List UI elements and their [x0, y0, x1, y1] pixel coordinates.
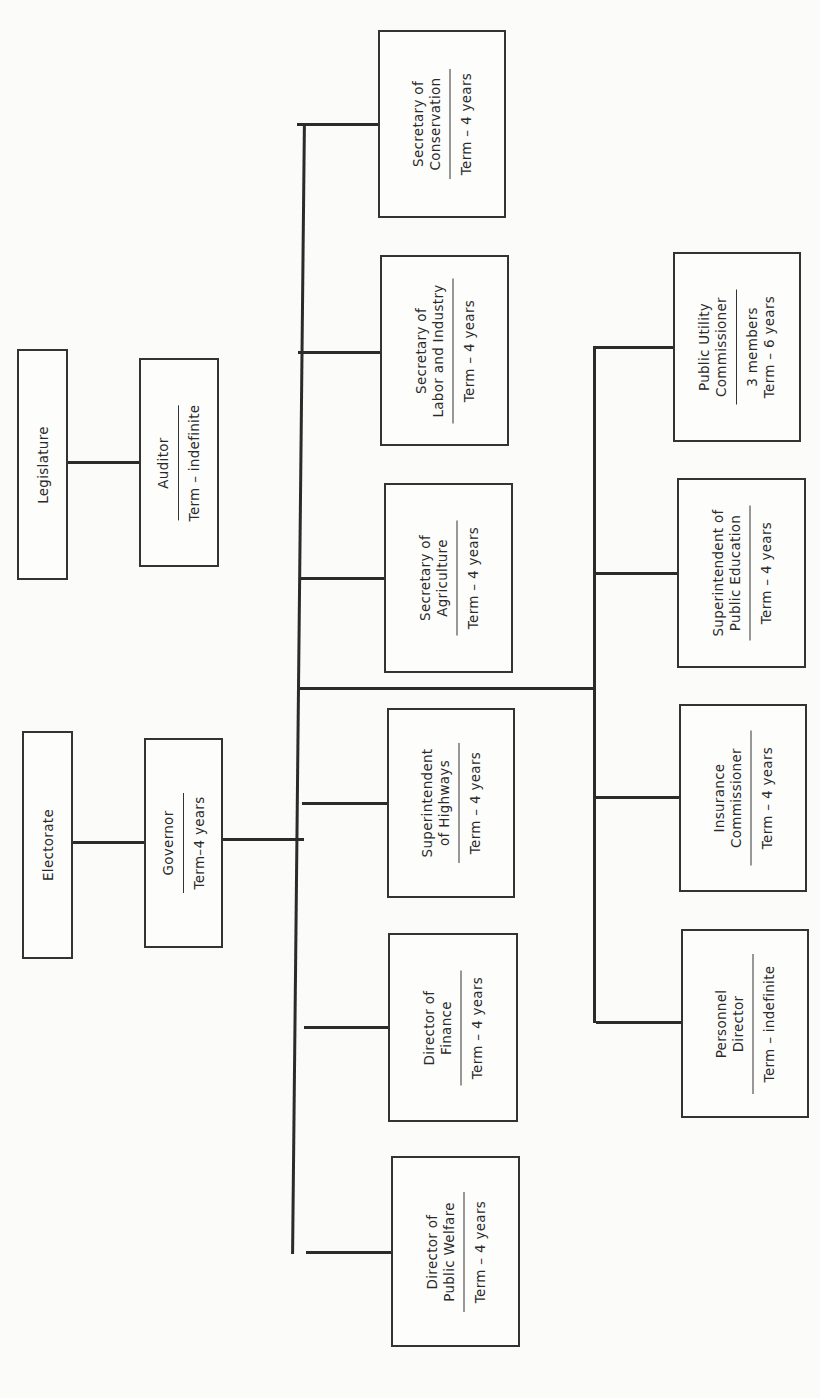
connector-electorate-governor — [72, 841, 145, 844]
divider — [751, 731, 752, 866]
highways-title-2: of Highways — [436, 760, 453, 846]
welfare-title-1: Director of — [423, 1214, 440, 1289]
public-utility-term: Term – 6 years — [761, 296, 778, 398]
conservation-title-1: Secretary of — [410, 81, 427, 167]
connector-highways — [302, 802, 388, 805]
agriculture-box: Secretary of Agriculture Term – 4 years — [384, 483, 513, 673]
insurance-box: Insurance Commissioner Term – 4 years — [679, 704, 807, 892]
personnel-box: Personnel Director Term – indefinite — [681, 929, 809, 1118]
governor-term: Term–4 years — [191, 796, 208, 889]
conservation-term: Term – 4 years — [458, 73, 475, 175]
labor-box: Secretary of Labor and Industry Term – 4… — [380, 255, 509, 446]
finance-term: Term – 4 years — [469, 976, 486, 1078]
connector-public-utility — [593, 346, 674, 349]
public-utility-title-2: Commissioner — [713, 297, 730, 397]
connector-legislature-auditor — [67, 461, 140, 464]
connector-welfare — [306, 1251, 392, 1254]
personnel-title-2: Director — [730, 995, 747, 1052]
education-title-2: Public Education — [726, 515, 743, 631]
education-title-1: Superintendent of — [709, 509, 726, 636]
highways-title-1: Superintendent — [419, 749, 436, 858]
auditor-box: Auditor Term – indefinite — [139, 358, 219, 567]
welfare-title-2: Public Welfare — [440, 1202, 457, 1302]
auditor-title: Auditor — [155, 437, 172, 488]
connector-insurance — [595, 796, 680, 799]
connector-labor — [298, 351, 381, 354]
welfare-term: Term – 4 years — [471, 1200, 488, 1302]
divider — [459, 743, 460, 863]
bus-to-right-trunk — [300, 687, 596, 690]
divider — [183, 793, 184, 893]
finance-title-1: Director of — [421, 990, 438, 1065]
insurance-title-2: Commissioner — [728, 748, 745, 848]
insurance-term: Term – 4 years — [759, 747, 776, 849]
divider — [749, 506, 750, 641]
electorate-box: Electorate — [22, 731, 73, 959]
auditor-term: Term – indefinite — [186, 404, 203, 521]
divider — [463, 1192, 464, 1312]
labor-title-1: Secretary of — [412, 308, 429, 394]
personnel-title-1: Personnel — [713, 989, 730, 1058]
connector-personnel — [596, 1021, 682, 1024]
divider — [452, 278, 453, 423]
public-utility-title-1: Public Utility — [696, 303, 713, 391]
insurance-title-1: Insurance — [711, 764, 728, 833]
connector-conservation — [297, 123, 379, 126]
governor-box: Governor Term–4 years — [144, 738, 223, 948]
labor-title-2: Labor and Industry — [429, 284, 446, 417]
education-term: Term – 4 years — [757, 522, 774, 624]
agriculture-title-2: Agriculture — [433, 539, 450, 617]
highways-box: Superintendent of Highways Term – 4 year… — [387, 708, 515, 898]
divider — [456, 521, 457, 636]
electorate-title: Electorate — [39, 809, 56, 881]
legislature-box: Legislature — [17, 349, 68, 580]
connector-finance — [304, 1026, 389, 1029]
highways-term: Term – 4 years — [467, 752, 484, 854]
legislature-title: Legislature — [34, 426, 51, 504]
divider — [450, 69, 451, 179]
personnel-term: Term – indefinite — [761, 965, 778, 1082]
governor-title: Governor — [160, 810, 177, 875]
connector-governor-trunk — [222, 838, 304, 841]
connector-education — [594, 572, 678, 575]
divider — [753, 954, 754, 1094]
agriculture-term: Term – 4 years — [464, 527, 481, 629]
agriculture-title-1: Secretary of — [416, 535, 433, 621]
public-utility-box: Public Utility Commissioner 3 members Te… — [673, 252, 801, 442]
divider — [178, 405, 179, 520]
divider — [736, 290, 737, 405]
public-utility-members: 3 members — [744, 307, 761, 387]
finance-title-2: Finance — [438, 1001, 455, 1055]
connector-agriculture — [299, 577, 385, 580]
finance-box: Director of Finance Term – 4 years — [388, 933, 518, 1122]
right-trunk — [593, 346, 596, 1023]
education-box: Superintendent of Public Education Term … — [677, 478, 806, 668]
welfare-box: Director of Public Welfare Term – 4 year… — [391, 1156, 520, 1347]
conservation-box: Secretary of Conservation Term – 4 years — [378, 30, 506, 218]
divider — [461, 970, 462, 1085]
conservation-title-2: Conservation — [427, 78, 444, 171]
labor-term: Term – 4 years — [460, 299, 477, 401]
